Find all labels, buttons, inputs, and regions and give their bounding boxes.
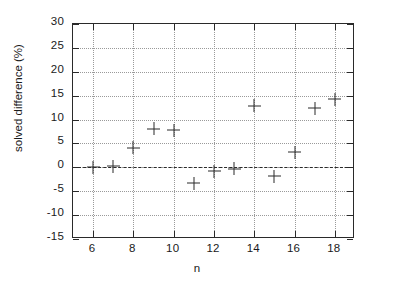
x-axis-tick bbox=[335, 24, 336, 30]
x-axis-tick-label: 10 bbox=[153, 242, 193, 254]
y-axis-tick bbox=[73, 143, 79, 144]
x-axis-tick bbox=[214, 24, 215, 30]
x-axis-tick bbox=[254, 231, 255, 237]
data-point-marker bbox=[248, 99, 261, 112]
data-point-marker bbox=[328, 93, 341, 106]
gridline-horizontal bbox=[73, 72, 353, 73]
gridline-horizontal bbox=[73, 48, 353, 49]
x-axis-tick bbox=[93, 24, 94, 30]
data-point-marker bbox=[147, 122, 160, 135]
y-axis-tick bbox=[347, 96, 353, 97]
x-axis-tick bbox=[254, 24, 255, 30]
y-axis-tick bbox=[73, 72, 79, 73]
y-axis-tick bbox=[73, 24, 79, 25]
y-axis-tick bbox=[73, 48, 79, 49]
y-axis-tick bbox=[347, 48, 353, 49]
y-axis-tick bbox=[73, 215, 79, 216]
x-axis-tick bbox=[335, 231, 336, 237]
x-axis-tick bbox=[174, 231, 175, 237]
plot-area bbox=[72, 23, 354, 238]
gridline-vertical bbox=[335, 24, 336, 237]
y-axis-tick bbox=[347, 191, 353, 192]
y-axis-tick bbox=[347, 215, 353, 216]
y-axis-tick bbox=[347, 120, 353, 121]
gridline-horizontal bbox=[73, 143, 353, 144]
x-axis-tick bbox=[295, 231, 296, 237]
gridline-vertical bbox=[214, 24, 215, 237]
x-axis-tick-label: 16 bbox=[274, 242, 314, 254]
y-axis-tick-label: -15 bbox=[4, 230, 64, 242]
gridline-horizontal bbox=[73, 215, 353, 216]
data-point-marker bbox=[288, 146, 301, 159]
gridlines bbox=[73, 24, 353, 237]
gridline-vertical bbox=[133, 24, 134, 237]
data-point-marker bbox=[308, 102, 321, 115]
y-axis-tick bbox=[347, 72, 353, 73]
data-point-marker bbox=[167, 124, 180, 137]
x-axis-tick bbox=[295, 24, 296, 30]
gridline-vertical bbox=[174, 24, 175, 237]
x-axis-tick bbox=[174, 24, 175, 30]
gridline-horizontal bbox=[73, 96, 353, 97]
x-axis-tick-label: 14 bbox=[233, 242, 273, 254]
x-axis-title: n bbox=[0, 262, 394, 274]
data-points bbox=[73, 24, 353, 237]
data-point-marker bbox=[127, 141, 140, 154]
x-axis-tick bbox=[133, 231, 134, 237]
y-axis-title: solved difference (%) bbox=[12, 18, 24, 178]
gridline-vertical bbox=[254, 24, 255, 237]
y-axis-tick bbox=[347, 239, 353, 240]
data-point-marker bbox=[228, 162, 241, 175]
x-axis-tick bbox=[93, 231, 94, 237]
x-axis-tick-label: 6 bbox=[72, 242, 112, 254]
gridline-vertical bbox=[295, 24, 296, 237]
y-axis-tick-label: -10 bbox=[4, 206, 64, 218]
x-axis-tick-label: 18 bbox=[314, 242, 354, 254]
y-axis-tick bbox=[73, 191, 79, 192]
x-axis-tick-label: 12 bbox=[193, 242, 233, 254]
gridline-horizontal bbox=[73, 191, 353, 192]
y-axis-tick-label: -5 bbox=[4, 182, 64, 194]
y-axis-tick bbox=[347, 143, 353, 144]
axis-ticks bbox=[73, 24, 353, 237]
scatter-chart: -15-10-5051015202530 681012141618 solved… bbox=[0, 0, 394, 293]
x-axis-tick-label: 8 bbox=[112, 242, 152, 254]
y-axis-tick bbox=[347, 24, 353, 25]
data-point-marker bbox=[187, 177, 200, 190]
y-axis-tick bbox=[73, 120, 79, 121]
y-axis-tick bbox=[73, 239, 79, 240]
x-axis-tick bbox=[133, 24, 134, 30]
gridline-horizontal bbox=[73, 120, 353, 121]
y-axis-tick bbox=[73, 96, 79, 97]
gridline-vertical bbox=[93, 24, 94, 237]
data-point-marker bbox=[268, 170, 281, 183]
zero-reference-line bbox=[73, 167, 353, 168]
x-axis-tick bbox=[214, 231, 215, 237]
